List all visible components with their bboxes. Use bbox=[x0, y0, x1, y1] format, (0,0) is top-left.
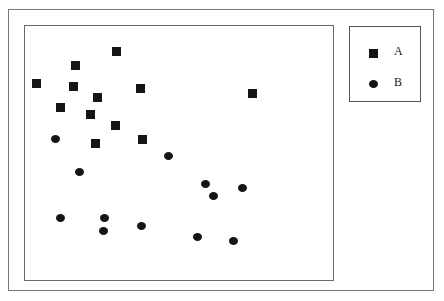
circle-marker-icon bbox=[369, 80, 378, 88]
legend-item-a: A bbox=[350, 43, 420, 63]
square-marker-icon bbox=[369, 49, 378, 58]
data-point-b bbox=[164, 152, 173, 160]
data-point-a bbox=[138, 135, 147, 144]
data-point-b bbox=[193, 233, 202, 241]
data-point-a bbox=[111, 121, 120, 130]
legend-item-b: B bbox=[350, 74, 420, 94]
legend-label-b: B bbox=[394, 75, 402, 90]
data-point-b bbox=[56, 214, 65, 222]
data-point-a bbox=[248, 89, 257, 98]
data-point-a bbox=[136, 84, 145, 93]
data-point-b bbox=[99, 227, 108, 235]
data-point-a bbox=[32, 79, 41, 88]
data-point-a bbox=[56, 103, 65, 112]
data-point-b bbox=[201, 180, 210, 188]
legend-label-a: A bbox=[394, 44, 403, 59]
data-point-b bbox=[51, 135, 60, 143]
data-point-b bbox=[238, 184, 247, 192]
data-point-a bbox=[112, 47, 121, 56]
data-point-b bbox=[75, 168, 84, 176]
data-point-a bbox=[69, 82, 78, 91]
data-point-a bbox=[86, 110, 95, 119]
data-point-b bbox=[137, 222, 146, 230]
data-point-b bbox=[100, 214, 109, 222]
data-point-a bbox=[91, 139, 100, 148]
data-point-b bbox=[229, 237, 238, 245]
legend: A B bbox=[349, 26, 421, 102]
data-point-a bbox=[71, 61, 80, 70]
data-point-b bbox=[209, 192, 218, 200]
data-point-a bbox=[93, 93, 102, 102]
